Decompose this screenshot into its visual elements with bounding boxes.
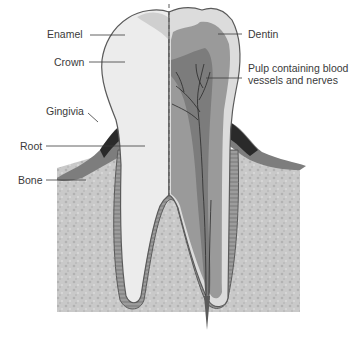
- label-dentin: Dentin: [248, 28, 278, 40]
- label-gingivia: Gingivia: [46, 105, 84, 117]
- label-bone: Bone: [18, 174, 43, 186]
- tooth-diagram: [0, 0, 358, 340]
- root-tip: [204, 296, 210, 330]
- label-enamel: Enamel: [47, 28, 83, 40]
- label-crown: Crown: [54, 56, 84, 68]
- label-pulp: Pulp containing blood vessels and nerves: [248, 62, 358, 86]
- label-root: Root: [20, 140, 42, 152]
